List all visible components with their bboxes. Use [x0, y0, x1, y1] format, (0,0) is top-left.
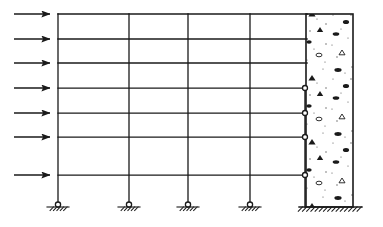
pin-circle-icon: [126, 202, 131, 207]
hinge-connection-icon: [303, 86, 308, 91]
hinge-connection-icon: [303, 173, 308, 178]
lateral-load-arrows: [14, 14, 50, 175]
hinge-connection-icon: [303, 111, 308, 116]
frame-members: [58, 14, 307, 207]
pinned-support: [177, 202, 199, 210]
hinge-connection-icon: [303, 135, 308, 140]
shear-wall-body: [306, 14, 353, 207]
structural-frame-diagram: [0, 0, 383, 227]
diagram-canvas: [0, 0, 383, 227]
pin-circle-icon: [185, 202, 190, 207]
pin-circle-icon: [247, 202, 252, 207]
shear-wall: [306, 14, 353, 207]
pin-circle-icon: [55, 202, 60, 207]
pinned-support: [239, 202, 261, 210]
pinned-support: [47, 202, 69, 210]
fixed-base-support: [298, 207, 362, 211]
pinned-support: [118, 202, 140, 210]
